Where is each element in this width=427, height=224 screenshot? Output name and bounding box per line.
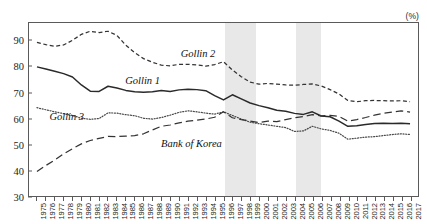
- x-tick-label: 1994: [209, 203, 218, 220]
- x-tick-mark: [250, 197, 251, 201]
- x-tick-label: 1980: [84, 203, 93, 220]
- x-tick-mark: [45, 197, 46, 201]
- y-tick-label: 50: [14, 139, 25, 150]
- x-tick-label: 2010: [352, 203, 361, 220]
- x-tick-mark: [393, 197, 394, 201]
- x-tick-mark: [322, 197, 323, 201]
- x-tick-mark: [107, 197, 108, 201]
- x-tick-mark: [349, 197, 350, 201]
- x-tick-mark: [197, 197, 198, 201]
- x-tick-label: 1997: [236, 203, 245, 220]
- x-tick-label: 2009: [343, 203, 352, 220]
- x-tick-mark: [313, 197, 314, 201]
- x-tick-mark: [268, 197, 269, 201]
- x-tick-mark: [224, 197, 225, 201]
- x-tick-mark: [63, 197, 64, 201]
- x-tick-mark: [232, 197, 233, 201]
- x-tick-mark: [277, 197, 278, 201]
- x-tick-mark: [72, 197, 73, 201]
- x-tick-label: 1981: [93, 203, 102, 220]
- x-tick-label: 2003: [289, 203, 298, 220]
- x-tick-label: 2015: [396, 203, 405, 220]
- x-tick-mark: [286, 197, 287, 201]
- y-tick-mark: [28, 40, 32, 41]
- x-tick-label: 2006: [316, 203, 325, 220]
- x-tick-mark: [188, 197, 189, 201]
- x-tick-mark: [366, 197, 367, 201]
- x-axis: 1975197619771978197919801981198219831984…: [28, 197, 419, 224]
- x-tick-label: 1983: [111, 203, 120, 220]
- y-tick-mark: [28, 170, 32, 171]
- y-tick-label: 80: [14, 61, 25, 72]
- x-tick-mark: [384, 197, 385, 201]
- x-tick-label: 1992: [191, 203, 200, 220]
- x-tick-label: 2007: [325, 203, 334, 220]
- x-tick-mark: [411, 197, 412, 201]
- y-tick-label: 30: [14, 192, 25, 203]
- x-tick-label: 1989: [164, 203, 173, 220]
- x-tick-label: 2005: [307, 203, 316, 220]
- x-tick-mark: [179, 197, 180, 201]
- y-tick-mark: [28, 92, 32, 93]
- x-tick-mark: [331, 197, 332, 201]
- x-tick-mark: [340, 197, 341, 201]
- y-tick-mark: [28, 118, 32, 119]
- x-tick-mark: [116, 197, 117, 201]
- x-tick-label: 1987: [146, 203, 155, 220]
- y-tick-label: 70: [14, 87, 25, 98]
- x-tick-label: 1979: [75, 203, 84, 220]
- x-tick-mark: [402, 197, 403, 201]
- x-tick-label: 2001: [271, 203, 280, 220]
- x-tick-label: 1976: [48, 203, 57, 220]
- y-tick-mark: [28, 144, 32, 145]
- x-tick-mark: [36, 197, 37, 201]
- series-label-gollin-1: Gollin 1: [125, 75, 160, 86]
- x-tick-label: 2011: [361, 203, 370, 219]
- x-tick-mark: [215, 197, 216, 201]
- x-tick-label: 1975: [39, 203, 48, 220]
- x-tick-mark: [295, 197, 296, 201]
- x-tick-mark: [357, 197, 358, 201]
- y-tick-label: 60: [14, 113, 25, 124]
- x-tick-mark: [304, 197, 305, 201]
- x-tick-label: 2008: [334, 203, 343, 220]
- y-axis: 30405060708090: [28, 22, 419, 197]
- y-tick-label: 90: [14, 35, 25, 46]
- x-tick-label: 1988: [155, 203, 164, 220]
- x-tick-label: 1993: [200, 203, 209, 220]
- series-label-bank-of-korea: Bank of Korea: [161, 138, 222, 149]
- x-tick-label: 1978: [66, 203, 75, 220]
- series-label-gollin-3: Gollin 3: [49, 111, 84, 122]
- x-tick-mark: [90, 197, 91, 201]
- x-tick-mark: [161, 197, 162, 201]
- x-tick-mark: [54, 197, 55, 201]
- y-tick-label: 40: [14, 165, 25, 176]
- x-tick-label: 2002: [280, 203, 289, 220]
- chart-figure: (%) 30405060708090 197519761977197819791…: [0, 0, 427, 224]
- x-tick-label: 1977: [57, 203, 66, 220]
- x-tick-mark: [206, 197, 207, 201]
- x-tick-label: 1990: [173, 203, 182, 220]
- x-tick-mark: [143, 197, 144, 201]
- x-tick-mark: [241, 197, 242, 201]
- x-tick-mark: [99, 197, 100, 201]
- x-tick-mark: [125, 197, 126, 201]
- x-tick-mark: [170, 197, 171, 201]
- x-tick-label: 1982: [102, 203, 111, 220]
- x-tick-label: 1996: [227, 203, 236, 220]
- y-tick-mark: [28, 66, 32, 67]
- x-tick-label: 2017: [414, 203, 423, 220]
- x-tick-mark: [375, 197, 376, 201]
- x-tick-label: 2016: [405, 203, 414, 220]
- x-tick-mark: [134, 197, 135, 201]
- x-tick-mark: [152, 197, 153, 201]
- x-tick-label: 1991: [182, 203, 191, 220]
- x-tick-mark: [81, 197, 82, 201]
- x-tick-label: 2004: [298, 203, 307, 220]
- series-label-gollin-2: Gollin 2: [181, 48, 216, 59]
- x-tick-label: 1995: [218, 203, 227, 220]
- units-label: (%): [405, 11, 419, 21]
- x-tick-mark: [259, 197, 260, 201]
